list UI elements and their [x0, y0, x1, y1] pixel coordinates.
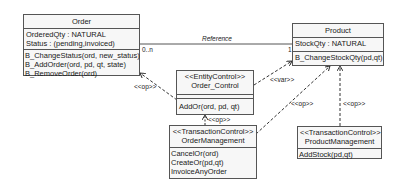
dependency-label-control-to-product: <<var>>	[270, 76, 294, 83]
method: B_ChangeStockQty(pd,qt)	[295, 53, 381, 62]
class-product-attributes: StockQty : NATURAL	[293, 37, 383, 51]
multiplicity-target: 1	[288, 46, 292, 53]
class-product-header: Product	[293, 24, 383, 37]
stereotype: <<TransactionControl>>	[300, 128, 379, 137]
method: CancelOr(ord)	[171, 149, 254, 158]
dependency-label-control-to-order: <<op>>	[134, 83, 156, 90]
stereotype: <<EntityControl>>	[179, 72, 251, 81]
class-product[interactable]: Product StockQty : NATURAL B_ChangeStock…	[292, 23, 384, 66]
dependency-label-productmgmt-to-product: <<op>>	[343, 100, 365, 107]
class-product-management[interactable]: <<TransactionControl>> ProductManagement…	[297, 126, 382, 159]
attribute: StockQty : NATURAL	[295, 39, 381, 48]
class-order-management[interactable]: <<TransactionControl>> OrderManagement C…	[169, 125, 257, 179]
dependency-label-ordermgmt-to-control: <<op>>	[208, 116, 230, 123]
class-product-name: Product	[325, 26, 351, 35]
class-order-control-header: <<EntityControl>> Order_Control	[177, 71, 253, 94]
class-order-name: Order	[72, 17, 91, 26]
method: AddOr(ord, pd, qt)	[179, 102, 251, 111]
class-order[interactable]: Order OrderedQty : NATURAL Status : (pen…	[23, 14, 140, 76]
class-order-control-methods: AddOr(ord, pd, qt)	[177, 98, 253, 112]
method: CreateOr(pd,qt)	[171, 158, 254, 167]
class-order-header: Order	[24, 15, 139, 28]
class-product-management-methods: AddStock(pd,qt)	[298, 148, 381, 160]
class-product-management-name: ProductManagement	[300, 137, 379, 146]
class-order-management-name: OrderManagement	[172, 136, 254, 145]
method: InvoiceAnyOrder	[171, 167, 254, 176]
class-order-control[interactable]: <<EntityControl>> Order_Control AddOr(or…	[176, 70, 254, 115]
class-order-attributes: OrderedQty : NATURAL Status : (pending,i…	[24, 28, 139, 49]
attribute: Status : (pending,invoiced)	[26, 39, 137, 48]
association-reference-label: Reference	[202, 35, 232, 42]
method: B_ChangeStatus(ord, new_status)	[25, 51, 137, 60]
stereotype: <<TransactionControl>>	[172, 127, 254, 136]
dependency-label-ordermgmt-to-product: <<op>>	[291, 100, 313, 107]
multiplicity-source: 0..n	[142, 46, 153, 53]
method: B_AddOrder(ord, pd, qt, state)	[25, 60, 137, 69]
attribute: OrderedQty : NATURAL	[26, 30, 137, 39]
class-order-control-name: Order_Control	[179, 81, 251, 90]
class-order-methods: B_ChangeStatus(ord, new_status) B_AddOrd…	[24, 49, 139, 79]
method: AddStock(pd,qt)	[299, 150, 379, 159]
class-product-methods: B_ChangeStockQty(pd,qt)	[293, 51, 383, 63]
method: B_RemoveOrder(ord)	[25, 69, 137, 78]
class-product-management-header: <<TransactionControl>> ProductManagement	[298, 127, 381, 148]
class-order-management-header: <<TransactionControl>> OrderManagement	[170, 126, 256, 147]
class-order-management-methods: CancelOr(ord) CreateOr(pd,qt) InvoiceAny…	[170, 147, 256, 177]
